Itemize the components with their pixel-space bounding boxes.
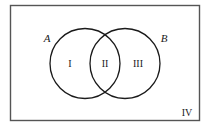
venn-diagram-figure: A B I II III IV <box>0 0 210 132</box>
region-label-iv: IV <box>182 107 193 118</box>
venn-diagram-canvas: A B I II III IV <box>0 0 210 132</box>
set-a-label: A <box>43 32 51 44</box>
region-label-iii: III <box>133 58 143 69</box>
set-b-label: B <box>161 32 168 44</box>
region-label-i: I <box>68 58 71 69</box>
region-label-ii: II <box>102 58 109 69</box>
